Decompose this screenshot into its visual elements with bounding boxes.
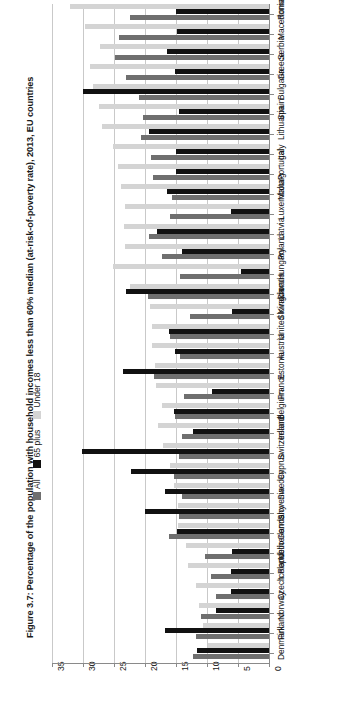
bar-all: [196, 634, 269, 639]
category-tick: [270, 513, 274, 514]
bar-all: [193, 654, 269, 659]
bar-65-plus: [145, 509, 269, 514]
bar-65-plus: [212, 389, 269, 394]
bar-group: [52, 643, 269, 663]
bar-under-18: [99, 104, 270, 109]
category-tick: [270, 214, 274, 215]
bar-under-18: [70, 4, 269, 9]
bar-group: [52, 84, 269, 104]
bar-under-18: [121, 184, 269, 189]
bar-group: [52, 563, 269, 583]
bar-65-plus: [176, 149, 269, 154]
category-tick: [270, 154, 274, 155]
bar-all: [119, 35, 269, 40]
bar-all: [184, 394, 269, 399]
bar-65-plus: [179, 109, 269, 114]
bar-under-18: [130, 284, 269, 289]
bar-all: [190, 314, 269, 319]
bar-65-plus: [177, 529, 269, 534]
category-tick: [270, 573, 274, 574]
bar-65-plus: [165, 628, 269, 633]
bar-all: [151, 155, 269, 160]
legend-label: Under 18: [32, 372, 42, 407]
bar-group: [52, 284, 269, 304]
bar-all: [182, 434, 269, 439]
bar-under-18: [188, 563, 269, 568]
bar-group: [52, 443, 269, 463]
bar-all: [169, 534, 269, 539]
category-tick: [270, 194, 274, 195]
legend-item-all: All: [32, 479, 42, 500]
legend-swatch-all-icon: [33, 492, 41, 500]
x-axis-line: [52, 663, 269, 664]
bar-group: [52, 603, 269, 623]
bar-all: [180, 274, 269, 279]
legend-swatch-u18-icon: [33, 411, 41, 419]
bar-65-plus: [174, 409, 269, 414]
category-tick: [270, 294, 274, 295]
category-label: Luxembourg: [276, 174, 286, 221]
bar-group: [52, 104, 269, 124]
bar-65-plus: [149, 129, 269, 134]
category-tick: [270, 493, 274, 494]
category-tick: [270, 373, 274, 374]
bar-group: [52, 144, 269, 164]
bar-65-plus: [232, 549, 269, 554]
category-tick: [270, 114, 274, 115]
category-tick: [270, 613, 274, 614]
bar-group: [52, 204, 269, 224]
bar-group: [52, 224, 269, 244]
bar-group: [52, 164, 269, 184]
bar-under-18: [155, 363, 269, 368]
bar-under-18: [93, 84, 269, 89]
bar-65-plus: [197, 648, 269, 653]
bar-under-18: [125, 204, 269, 209]
bar-all: [175, 414, 269, 419]
bar-group: [52, 623, 269, 643]
legend-swatch-p65-icon: [33, 460, 41, 468]
bar-under-18: [85, 24, 269, 29]
bar-all: [115, 55, 269, 60]
bar-all: [174, 474, 269, 479]
bar-group: [52, 463, 269, 483]
category-tick: [270, 453, 274, 454]
bar-65-plus: [83, 89, 269, 94]
bar-group: [52, 304, 269, 324]
bar-group: [52, 483, 269, 503]
bar-under-18: [208, 643, 269, 648]
bar-group: [52, 184, 269, 204]
bar-under-18: [196, 583, 269, 588]
bar-under-18: [174, 483, 269, 488]
bar-65-plus: [231, 569, 269, 574]
bar-under-18: [152, 324, 269, 329]
bar-65-plus: [175, 69, 269, 74]
category-tick: [270, 633, 274, 634]
category-tick: [270, 14, 274, 15]
category-label: Bulgaria: [276, 70, 286, 101]
category-label: Macedonia: [276, 0, 286, 40]
category-tick: [270, 473, 274, 474]
bar-under-18: [152, 343, 269, 348]
bar-group: [52, 383, 269, 403]
category-tick: [270, 94, 274, 95]
bar-65-plus: [123, 369, 269, 374]
bar-65-plus: [131, 469, 269, 474]
bar-under-18: [102, 124, 269, 129]
bar-under-18: [90, 64, 269, 69]
bar-group: [52, 4, 269, 24]
category-tick: [270, 393, 274, 394]
bar-65-plus: [193, 429, 269, 434]
bar-all: [130, 15, 269, 20]
bar-group: [52, 523, 269, 543]
bar-group: [52, 244, 269, 264]
bar-group: [52, 324, 269, 344]
bar-under-18: [170, 463, 269, 468]
category-tick: [270, 413, 274, 414]
bar-all: [179, 514, 269, 519]
category-tick: [270, 134, 274, 135]
bar-under-18: [186, 543, 269, 548]
bar-all: [201, 614, 269, 619]
category-tick: [270, 254, 274, 255]
bar-all: [148, 294, 269, 299]
legend-item-p65: 65 plus: [32, 430, 42, 469]
